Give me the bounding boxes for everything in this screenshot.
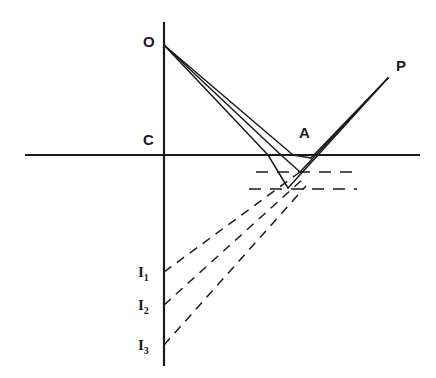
- incident-ray-2: [164, 45, 281, 155]
- virtual-ray-1: [164, 172, 300, 272]
- label-image-1: I1: [138, 265, 149, 283]
- label-image-1-subscript: 1: [144, 272, 149, 283]
- dashed-reference-lines-group: [249, 172, 357, 189]
- label-center-point: C: [143, 132, 154, 147]
- incident-rays-group: [164, 45, 293, 155]
- label-object-point: O: [143, 34, 155, 49]
- refracted-segment-2: [281, 155, 300, 172]
- incident-ray-3: [164, 45, 293, 155]
- virtual-rays-group: [164, 172, 306, 345]
- label-image-2: I2: [138, 298, 149, 316]
- figure-canvas: O C A P I1 I2 I3: [0, 0, 436, 378]
- incident-ray-1: [164, 45, 268, 155]
- ray-diagram-svg: [0, 0, 436, 378]
- virtual-ray-3: [164, 186, 306, 345]
- label-image-3-subscript: 3: [144, 345, 149, 356]
- label-image-point-p: P: [396, 58, 406, 73]
- label-image-2-subscript: 2: [144, 305, 149, 316]
- label-surface-point: A: [299, 125, 310, 140]
- emergent-ray-3: [311, 78, 388, 158]
- label-image-3: I3: [138, 338, 149, 356]
- virtual-ray-2: [164, 179, 303, 305]
